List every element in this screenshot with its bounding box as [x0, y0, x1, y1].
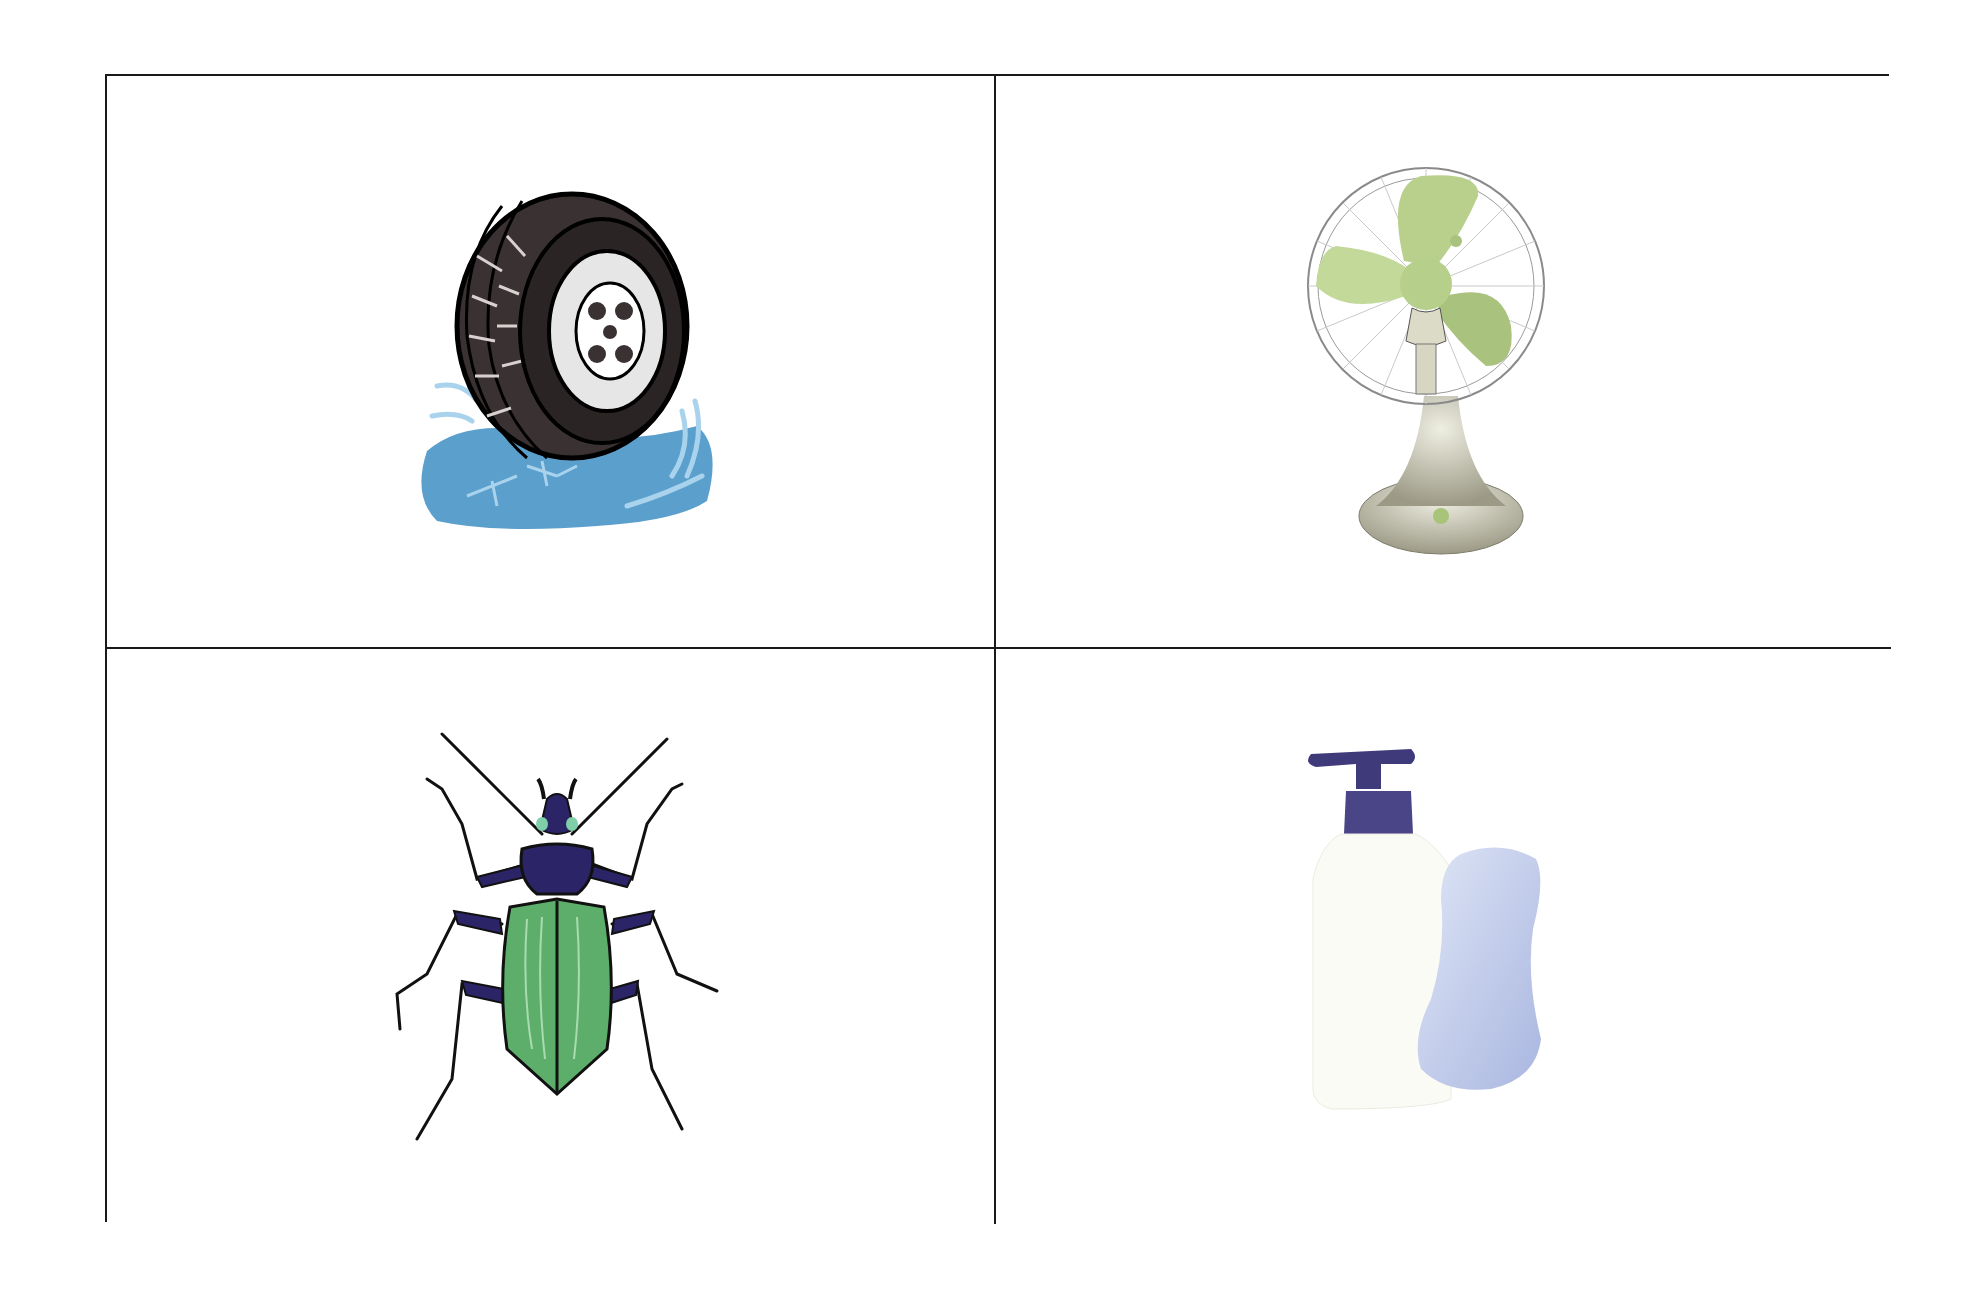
card-label: Electric desk fan — [996, 76, 997, 77]
card-label: Green beetle — [107, 649, 108, 650]
card-soap[interactable]: Soap pump bottle and soap bar — [996, 649, 1891, 1224]
card-label: Soap pump bottle and soap bar — [996, 649, 997, 650]
beetle-icon — [382, 729, 732, 1149]
card-label: Tire in puddle — [107, 76, 108, 77]
card-beetle[interactable]: Green beetle — [107, 649, 996, 1224]
picture-grid: Tire in puddle Electric desk fan — [105, 74, 1889, 1222]
soap-icon — [1301, 749, 1601, 1139]
card-tire[interactable]: Tire in puddle — [107, 76, 996, 649]
tire-icon — [407, 176, 727, 546]
card-fan[interactable]: Electric desk fan — [996, 76, 1891, 649]
fan-icon — [1306, 166, 1576, 566]
